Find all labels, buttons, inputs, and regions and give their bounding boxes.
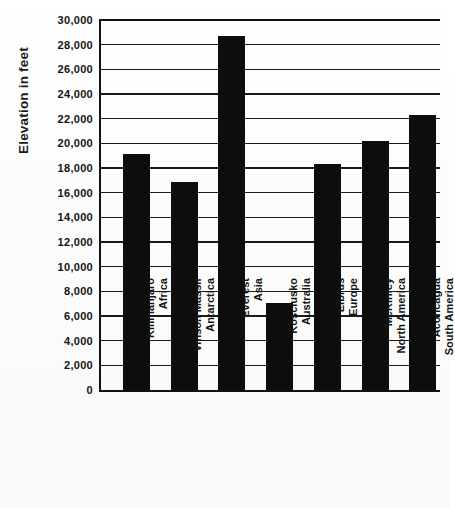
y-axis-line xyxy=(99,20,101,392)
x-axis-category-label: AconcaguaSouth America xyxy=(430,278,455,398)
y-axis-tick-label: 6,000 xyxy=(31,310,93,322)
x-axis-category-label: KosciuskoAustralia xyxy=(287,278,312,398)
gridline xyxy=(99,118,440,120)
y-axis-tick-label: 18,000 xyxy=(31,162,93,174)
y-axis-tick-label: 10,000 xyxy=(31,261,93,273)
category-label-peak: Elbrus xyxy=(334,278,347,398)
category-label-peak: Aconcagua xyxy=(430,278,443,398)
x-axis-category-labels: KilimanjaroAfricaVinson MassifAntarctica… xyxy=(99,392,440,508)
y-axis-tick-label: 26,000 xyxy=(31,63,93,75)
y-axis-tick-label: 0 xyxy=(31,384,93,396)
category-label-continent: Antarctica xyxy=(204,278,217,398)
gridline xyxy=(99,241,440,243)
gridline xyxy=(99,19,440,21)
y-axis-tick-label: 2,000 xyxy=(31,359,93,371)
category-label-peak: Kilimanjaro xyxy=(144,278,157,398)
gridline xyxy=(99,266,440,268)
category-label-peak: McKinley xyxy=(382,278,395,398)
x-axis-category-label: Vinson MassifAntarctica xyxy=(191,278,216,398)
y-axis-tick-label: 4,000 xyxy=(31,335,93,347)
x-axis-category-label: EverestAsia xyxy=(239,278,264,398)
y-axis-tick-label: 14,000 xyxy=(31,211,93,223)
y-axis-tick-label: 12,000 xyxy=(31,236,93,248)
gridline xyxy=(99,143,440,145)
y-axis-tick-label: 16,000 xyxy=(31,187,93,199)
gridline xyxy=(99,167,440,169)
gridline xyxy=(99,69,440,71)
gridline xyxy=(99,44,440,46)
y-axis-tick-label: 30,000 xyxy=(31,14,93,26)
category-label-continent: South America xyxy=(442,278,455,398)
category-label-continent: Africa xyxy=(156,278,169,398)
y-axis-tick-label: 28,000 xyxy=(31,39,93,51)
x-axis-category-label: KilimanjaroAfrica xyxy=(144,278,169,398)
category-label-continent: Australia xyxy=(299,278,312,398)
x-axis-category-label: McKinleyNorth America xyxy=(382,278,407,398)
y-axis-tick-label: 22,000 xyxy=(31,113,93,125)
gridline xyxy=(99,93,440,95)
gridline xyxy=(99,192,440,194)
y-axis-title: Elevation in feet xyxy=(16,4,40,154)
category-label-peak: Kosciusko xyxy=(287,278,300,398)
y-axis-tick-label: 24,000 xyxy=(31,88,93,100)
y-axis-tick-label: 8,000 xyxy=(31,285,93,297)
gridline xyxy=(99,217,440,219)
x-axis-category-label: ElbrusEurope xyxy=(334,278,359,398)
category-label-peak: Vinson Massif xyxy=(191,278,204,398)
category-label-continent: Asia xyxy=(251,278,264,398)
category-label-peak: Everest xyxy=(239,278,252,398)
category-label-continent: North America xyxy=(395,278,408,398)
category-label-continent: Europe xyxy=(347,278,360,398)
y-axis-tick-label: 20,000 xyxy=(31,137,93,149)
